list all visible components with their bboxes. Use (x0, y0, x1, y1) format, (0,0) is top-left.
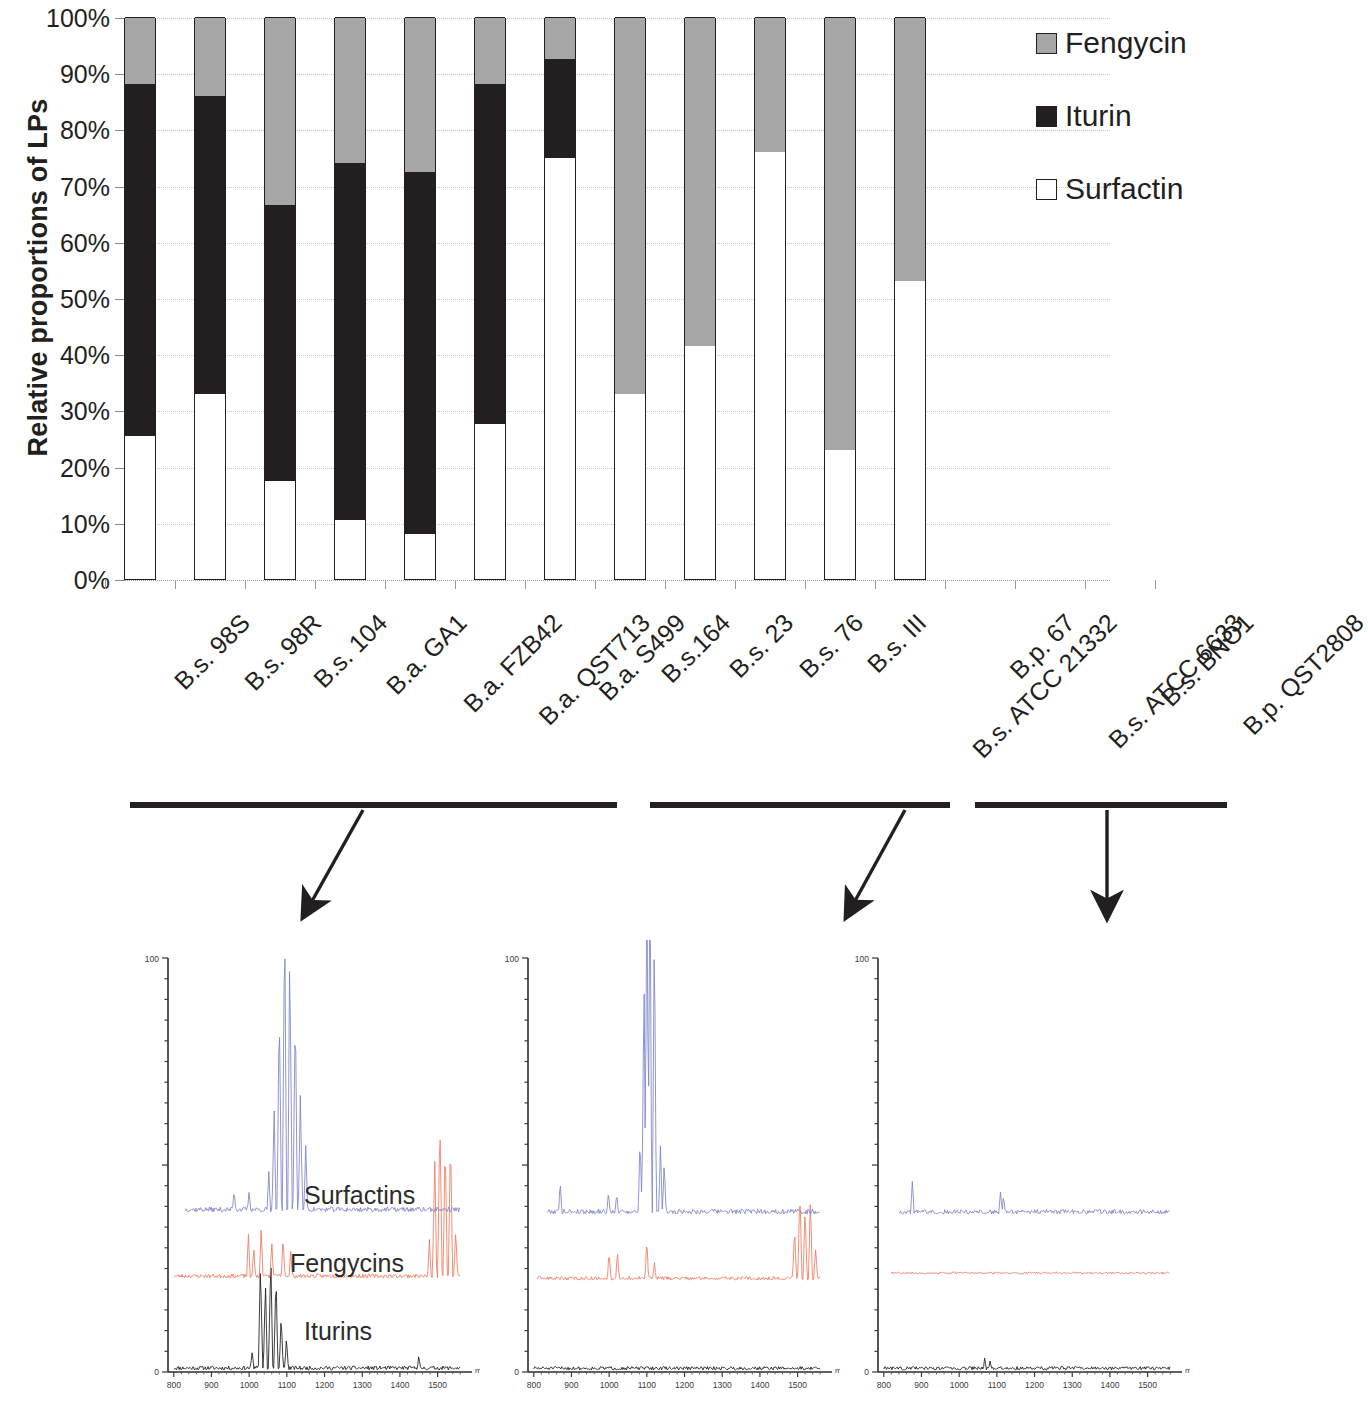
spectrum-x-tick-label: 1200 (315, 1380, 334, 1390)
spectrum-x-tick-label: 1300 (713, 1380, 732, 1390)
spectrum-x-tick-label: 900 (204, 1380, 218, 1390)
legend-swatch-icon (1036, 33, 1057, 54)
bar-segment-fengycin (895, 17, 925, 281)
y-tick-label: 30% (18, 399, 124, 424)
spectrum-y-tick-label: 0 (154, 1367, 159, 1377)
spectrum-x-tick-label: 1200 (1025, 1380, 1044, 1390)
x-axis-label: B.s. 98S (168, 608, 255, 695)
y-tick-label: 90% (18, 62, 124, 87)
stacked-bar[interactable] (894, 18, 926, 580)
group-arrow-1 (100, 804, 460, 929)
spectrum-y-tick-label: 100 (145, 954, 159, 964)
legend-item[interactable]: Surfactin (1036, 174, 1241, 204)
y-tick-label: 50% (18, 287, 124, 312)
bar-segment-surfactin (545, 158, 575, 580)
bar-segment-fengycin (195, 17, 225, 96)
spectrum-x-tick-label: 1300 (1063, 1380, 1082, 1390)
x-axis-label: B.s. 76 (794, 608, 870, 684)
bar-segment-surfactin (895, 281, 925, 579)
bar-segment-surfactin (125, 436, 155, 579)
x-tick-mark (735, 580, 736, 589)
spectrum-trace-fengycins (538, 1205, 821, 1280)
legend-swatch-icon (1036, 179, 1057, 200)
stacked-bar[interactable] (334, 18, 366, 580)
x-axis-label: B.s. 23 (724, 608, 800, 684)
y-tick-label: 70% (18, 175, 124, 200)
bar-segment-surfactin (615, 394, 645, 579)
stacked-bar[interactable] (684, 18, 716, 580)
spectrum-x-tick-label: 1100 (988, 1380, 1007, 1390)
bar-segment-iturin (475, 84, 505, 424)
bar-segment-iturin (405, 172, 435, 534)
bar-segment-surfactin (195, 394, 225, 579)
spectrum-annotation: Iturins (304, 1317, 372, 1345)
stacked-bar[interactable] (124, 18, 156, 580)
bar-segment-surfactin (685, 346, 715, 579)
spectrum-y-tick-label: 0 (864, 1367, 869, 1377)
spectrum-trace-fengycins (891, 1272, 1169, 1274)
x-tick-mark (1155, 580, 1156, 589)
spectrum-x-tick-label: 900 (564, 1380, 578, 1390)
bar-segment-fengycin (685, 17, 715, 346)
bar-segment-iturin (335, 163, 365, 520)
x-tick-mark (805, 580, 806, 589)
x-tick-mark (175, 580, 176, 589)
spectrum-axes: 1000800900100011001200130014001500m/z (505, 954, 840, 1390)
spectrum-x-tick-label: 1100 (278, 1380, 297, 1390)
x-tick-mark (525, 580, 526, 589)
spectrum-x-tick-label: 1400 (750, 1380, 769, 1390)
spectrum-x-tick-label: 800 (527, 1380, 541, 1390)
legend-item[interactable]: Fengycin (1036, 28, 1241, 58)
spectrum-annotation: Surfactins (304, 1181, 415, 1209)
legend-item[interactable]: Iturin (1036, 101, 1241, 131)
stacked-bar[interactable] (824, 18, 856, 580)
spectrum-x-tick-label: 1500 (1138, 1380, 1157, 1390)
group-brackets (0, 780, 1245, 940)
x-tick-mark (105, 580, 106, 589)
stacked-bar[interactable] (754, 18, 786, 580)
stacked-bar[interactable] (614, 18, 646, 580)
y-gridline (124, 580, 1110, 581)
spectrum-x-tick-label: 800 (877, 1380, 891, 1390)
spectrum-x-tick-label: 900 (914, 1380, 928, 1390)
bar-segment-fengycin (825, 17, 855, 450)
bar-segment-fengycin (615, 17, 645, 394)
x-tick-mark (875, 580, 876, 589)
spectrum-x-tick-label: 1000 (600, 1380, 619, 1390)
spectrum-x-tick-label: 1100 (638, 1380, 657, 1390)
bar-segment-fengycin (265, 17, 295, 205)
spectrum-plot: 1000800900100011001200130014001500m/zSur… (128, 940, 480, 1409)
y-tick-label: 20% (18, 456, 124, 481)
stacked-bar[interactable] (194, 18, 226, 580)
x-tick-mark (945, 580, 946, 589)
spectrum-y-tick-label: 100 (855, 954, 869, 964)
x-axis-label: B.s. III (862, 608, 933, 679)
bar-segment-iturin (195, 96, 225, 394)
group-arrow-2 (740, 804, 980, 929)
x-tick-mark (1015, 580, 1016, 589)
spectrum-x-tick-label: 1500 (788, 1380, 807, 1390)
stacked-bar[interactable] (264, 18, 296, 580)
bar-segment-fengycin (335, 17, 365, 163)
x-axis-label: B.s. BNO1 (1155, 608, 1259, 712)
mass-spectra-row: 1000800900100011001200130014001500m/zSur… (0, 940, 1245, 1409)
x-tick-mark (595, 580, 596, 589)
stacked-bar[interactable] (474, 18, 506, 580)
bar-segment-fengycin (755, 17, 785, 152)
stacked-bar[interactable] (404, 18, 436, 580)
stacked-bar[interactable] (544, 18, 576, 580)
group-arrow-3 (1060, 804, 1220, 929)
spectrum-x-axis-title: m/z (475, 1366, 480, 1375)
spectrum-panel-2: 1000800900100011001200130014001500m/z (488, 940, 840, 1409)
x-axis-label: B.a. GA1 (380, 608, 472, 700)
bar-segment-iturin (545, 59, 575, 157)
bar-segment-fengycin (545, 17, 575, 59)
x-tick-mark (245, 580, 246, 589)
bar-segment-fengycin (405, 17, 435, 172)
spectrum-plot: 1000800900100011001200130014001500m/z (488, 940, 840, 1409)
y-tick-label: 80% (18, 118, 124, 143)
bar-segment-surfactin (825, 450, 855, 579)
spectrum-trace-surfactins (899, 1182, 1170, 1214)
y-tick-label: 10% (18, 512, 124, 537)
x-tick-mark (455, 580, 456, 589)
